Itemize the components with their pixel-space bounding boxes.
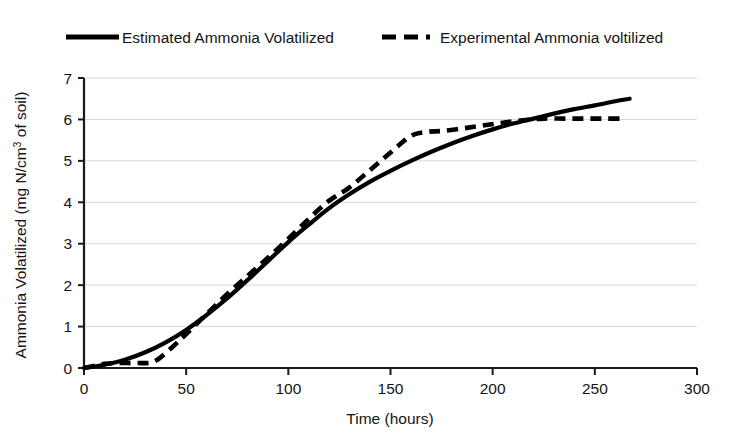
y-tick-label: 0 [63,360,72,377]
y-tick-label: 1 [63,318,72,335]
x-tick-label: 100 [275,380,301,397]
legend-label-experimental: Experimental Ammonia voltilized [440,29,663,46]
chart-figure: Estimated Ammonia Volatilized Experiment… [0,0,738,442]
x-tick-label: 250 [582,380,608,397]
ammonia-volatilization-line-chart: Estimated Ammonia Volatilized Experiment… [0,0,738,442]
y-tick-label: 7 [63,70,72,87]
x-tick-label: 300 [684,380,710,397]
x-tick-label: 50 [178,380,196,397]
y-tick-label: 5 [63,152,72,169]
y-axis-title-main: Ammonia Volatilized (mg N/cm [12,147,29,358]
y-axis-title: Ammonia Volatilized (mg N/cm3 of soil) [11,92,29,359]
x-axis-title: Time (hours) [346,410,433,427]
x-tick-label: 150 [378,380,404,397]
legend-label-estimated: Estimated Ammonia Volatilized [122,29,334,46]
chart-background [0,0,738,442]
y-tick-label: 2 [63,277,72,294]
y-axis-title-tail: of soil) [12,92,29,142]
x-tick-label: 200 [480,380,506,397]
y-tick-label: 6 [63,111,72,128]
y-tick-label: 4 [63,194,72,211]
y-tick-label: 3 [63,235,72,252]
x-tick-label: 0 [80,380,89,397]
